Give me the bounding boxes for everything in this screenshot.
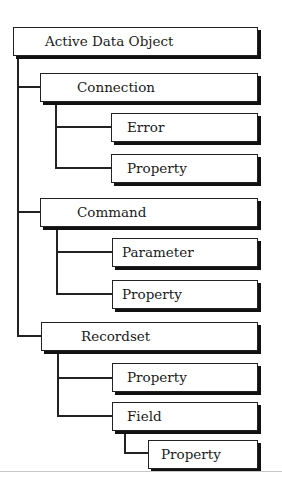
node-label: Parameter bbox=[122, 244, 194, 260]
node-label: Error bbox=[127, 119, 164, 135]
connector-connection-error bbox=[55, 126, 112, 128]
node-label: Connection bbox=[77, 79, 155, 95]
page-rule-divider bbox=[0, 471, 282, 472]
node-field-property: Property bbox=[148, 440, 258, 469]
node-active-data-object: Active Data Object bbox=[13, 27, 258, 56]
connector-command-parameter bbox=[56, 251, 112, 253]
node-label: Command bbox=[77, 204, 146, 220]
node-label: Property bbox=[161, 446, 221, 462]
node-connection-property: Property bbox=[111, 154, 258, 183]
node-label: Field bbox=[127, 408, 162, 424]
node-command: Command bbox=[40, 198, 258, 227]
command-branch-connector bbox=[56, 226, 58, 294]
connector-command bbox=[17, 211, 41, 213]
connector-recordset-field bbox=[57, 415, 112, 417]
connector-connection-property bbox=[55, 167, 112, 169]
field-branch-connector bbox=[124, 430, 126, 453]
node-connection: Connection bbox=[40, 73, 258, 102]
node-recordset-field: Field bbox=[112, 402, 258, 431]
connector-recordset bbox=[17, 335, 41, 337]
node-label: Property bbox=[127, 369, 187, 385]
node-command-parameter: Parameter bbox=[112, 238, 258, 267]
node-label: Property bbox=[127, 160, 187, 176]
trunk-connector bbox=[17, 55, 19, 336]
connector-connection bbox=[17, 86, 41, 88]
connector-command-property bbox=[56, 293, 112, 295]
node-label: Active Data Object bbox=[45, 33, 173, 49]
connector-recordset-property bbox=[57, 377, 112, 379]
connector-field-property bbox=[124, 452, 148, 454]
connection-branch-connector bbox=[55, 101, 57, 167]
node-command-property: Property bbox=[112, 280, 258, 309]
node-connection-error: Error bbox=[111, 113, 258, 142]
node-recordset-property: Property bbox=[112, 363, 258, 392]
node-recordset: Recordset bbox=[41, 322, 258, 351]
recordset-branch-connector bbox=[57, 351, 59, 416]
node-label: Property bbox=[122, 286, 182, 302]
node-label: Recordset bbox=[81, 328, 150, 344]
